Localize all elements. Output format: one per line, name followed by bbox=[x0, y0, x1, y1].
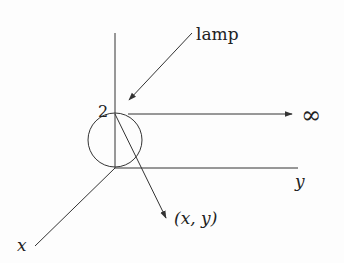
diagram-canvas: lamp 2 ∞ (x, y) y x bbox=[0, 0, 344, 263]
diagram-lines bbox=[0, 0, 344, 263]
lamp-label: lamp bbox=[196, 26, 239, 43]
height-label: 2 bbox=[98, 104, 108, 120]
x-axis-label: x bbox=[17, 237, 27, 254]
point-label: (x, y) bbox=[174, 210, 217, 227]
y-axis-label: y bbox=[295, 173, 305, 190]
x-axis bbox=[35, 168, 115, 246]
infinity-label: ∞ bbox=[301, 103, 321, 127]
lamp-pointer-arrow bbox=[129, 33, 192, 100]
